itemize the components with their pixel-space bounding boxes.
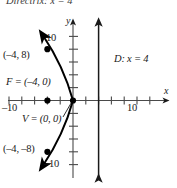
point-label-upper: (–4, 8): [3, 50, 30, 61]
vertex-label: V = (0, 0): [22, 114, 61, 125]
focus-label: F = (–4, 0): [6, 77, 51, 88]
y-axis-label: y: [66, 16, 70, 26]
point-vertex: [70, 97, 76, 103]
x-tick-label-neg10: –10: [2, 103, 17, 114]
y-tick-label-10: 10: [46, 33, 56, 44]
point-lower: [44, 149, 50, 155]
directrix-label: D: x = 4: [114, 54, 148, 65]
point-label-lower: (–4, –8): [3, 144, 35, 155]
x-tick-label-10: 10: [127, 103, 137, 114]
point-focus: [44, 97, 50, 103]
y-tick-label-neg10: –10: [44, 158, 59, 169]
x-axis-label: x: [164, 86, 168, 96]
coordinate-plot-svg: [0, 0, 177, 188]
point-upper: [44, 46, 50, 52]
x-axis: [8, 97, 166, 105]
